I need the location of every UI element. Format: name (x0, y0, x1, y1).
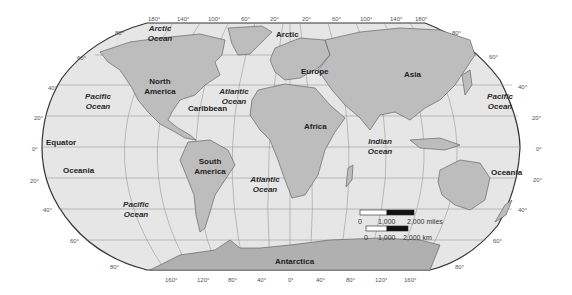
right-lat-tick: 20° (532, 113, 541, 123)
bottom-lon-tick: 40° (257, 275, 266, 285)
right-lat-tick: 20° (533, 175, 542, 185)
scale-km-zero: 0 (364, 233, 368, 243)
bottom-lon-tick: 160° (165, 275, 177, 285)
right-lat-tick: 60° (493, 236, 502, 246)
label-arctic: Arctic (276, 30, 299, 40)
top-lon-tick: 60° (332, 14, 341, 24)
scale-miles-end: 2,000 miles (407, 217, 443, 227)
right-lat-tick: 0° (536, 144, 542, 154)
right-lat-tick: 40° (518, 82, 527, 92)
label-antarctica: Antarctica (275, 257, 314, 267)
right-lat-tick: 80° (455, 262, 464, 272)
label-atlantic-ocean-south: Atlantic Ocean (245, 175, 285, 195)
bottom-lon-tick: 120° (375, 275, 387, 285)
left-lat-tick: 60° (77, 53, 86, 63)
right-lat-tick: 80° (452, 28, 461, 38)
top-lon-tick: 100° (360, 14, 372, 24)
left-lat-tick: 80° (115, 28, 124, 38)
left-lat-tick: 60° (70, 236, 79, 246)
label-oceania-left: Oceania (63, 166, 94, 176)
left-lat-tick: 80° (110, 262, 119, 272)
label-pacific-ocean-ne: Pacific Ocean (482, 92, 518, 112)
bottom-lon-tick: 120° (197, 275, 209, 285)
bottom-lon-tick: 40° (316, 275, 325, 285)
top-lon-tick: 60° (241, 14, 250, 24)
top-lon-tick: 100° (208, 14, 220, 24)
label-oceania-right: Oceania (491, 168, 522, 178)
scale-miles-zero: 0 (358, 217, 362, 227)
right-lat-tick: 40° (518, 205, 527, 215)
label-atlantic-ocean-north: Atlantic Ocean (214, 87, 254, 107)
top-lon-tick: 180° (415, 14, 427, 24)
label-pacific-ocean-sw: Pacific Ocean (118, 200, 154, 220)
bottom-lon-tick: 80° (228, 275, 237, 285)
left-lat-tick: 40° (48, 83, 57, 93)
scale-km-end: 2,000 km (403, 233, 432, 243)
top-lon-tick: 20° (270, 14, 279, 24)
bottom-lon-tick: 0° (288, 275, 294, 285)
label-equator: Equator (46, 138, 76, 148)
label-indian-ocean: Indian Ocean (363, 137, 397, 157)
bottom-lon-tick: 80° (346, 275, 355, 285)
label-asia: Asia (404, 70, 421, 80)
bottom-lon-tick: 160° (404, 275, 416, 285)
scale-km-mid: 1,000 (378, 233, 396, 243)
top-lon-tick: 140° (177, 14, 189, 24)
label-europe: Europe (301, 67, 329, 77)
label-north-america: North America (140, 77, 180, 97)
label-pacific-ocean-nw: Pacific Ocean (80, 92, 116, 112)
right-lat-tick: 60° (489, 52, 498, 62)
top-lon-tick: 180° (148, 14, 160, 24)
world-map (0, 0, 572, 295)
left-lat-tick: 40° (43, 205, 52, 215)
top-lon-tick: 20° (302, 14, 311, 24)
left-lat-tick: 20° (34, 113, 43, 123)
label-arctic-ocean: Arctic Ocean (145, 24, 175, 44)
scale-miles-mid: 1,000 (378, 217, 396, 227)
left-lat-tick: 0° (32, 144, 38, 154)
left-lat-tick: 20° (30, 176, 39, 186)
label-africa: Africa (304, 122, 327, 132)
label-south-america: South America (190, 157, 230, 177)
top-lon-tick: 140° (390, 14, 402, 24)
scale-bar-miles (360, 210, 414, 215)
